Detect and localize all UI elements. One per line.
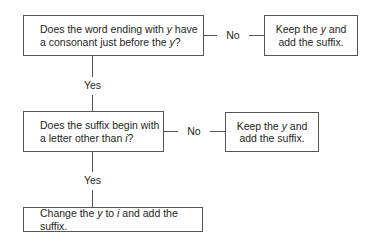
yes-label-2: Yes [77,174,108,186]
q1-line1-pre: Does the word ending with [40,23,167,35]
q1-line1-post: have [172,23,198,35]
a1-line1-pre: Keep the [276,23,321,35]
connector-q1-no-left [204,35,217,36]
connector-q2-yes-top [92,152,93,172]
answer-1-box: Keep the y and add the suffix. [264,15,358,56]
a1-line1-post: and [326,23,346,35]
yes-label-1: Yes [77,79,108,91]
q2-line1: Does the suffix begin with [40,119,159,132]
connector-q1-no-right [249,35,264,36]
a1-line2: add the suffix. [276,36,347,49]
connector-q2-no-left [164,131,178,132]
q1-line2-post: ? [175,36,181,48]
final-answer-box: Change the y to i and add the suffix. [23,207,203,232]
connector-q2-yes-bottom [92,190,93,207]
question-2-box: Does the suffix begin with a letter othe… [23,111,164,152]
answer-2-text: Keep the y and add the suffix. [237,120,308,145]
q2-line2-pre: a letter other than [40,132,125,144]
q1-line2-pre: a consonant just before the [40,36,170,48]
connector-q1-yes-bottom [92,95,93,111]
no-label-2: No [179,125,209,137]
a2-line2: add the suffix. [237,132,308,145]
final-pre: Change the [40,207,97,219]
question-1-text: Does the word ending with y have a conso… [40,23,198,48]
no-label-1: No [218,29,248,41]
a2-line1-post: and [287,120,307,132]
question-2-text: Does the suffix begin with a letter othe… [40,119,159,144]
final-answer-text: Change the y to i and add the suffix. [40,207,202,232]
question-1-box: Does the word ending with y have a conso… [23,15,204,56]
a2-line1-pre: Keep the [237,120,282,132]
q2-line2-post: ? [128,132,134,144]
final-mid: to [102,207,117,219]
answer-1-text: Keep the y and add the suffix. [276,23,347,48]
answer-2-box: Keep the y and add the suffix. [225,112,319,152]
connector-q1-yes-top [92,56,93,77]
connector-q2-no-right [210,131,225,132]
